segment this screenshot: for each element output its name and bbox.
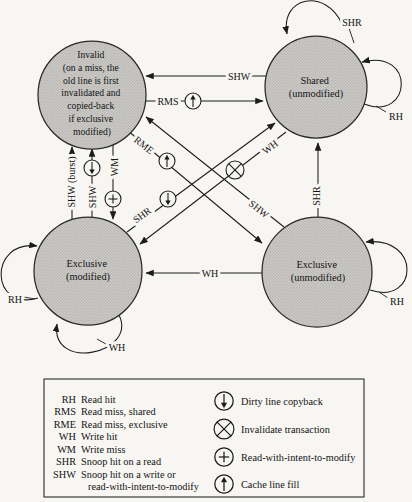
loop-label-exclusive-unmodified-rh: RH (390, 296, 404, 307)
loop-shared-shr-leader (349, 28, 354, 43)
legend-def-wh: Write hit (81, 431, 118, 442)
mesi-state-diagram: Invalid (on a miss, the old line is firs… (0, 0, 412, 502)
loop-exclusive-modified-wh-leader (97, 339, 106, 344)
legend-sym-def-fill: Cache line fill (241, 479, 299, 490)
legend-sym-def-invalidate: Invalidate transaction (241, 424, 330, 435)
diagram-canvas: Invalid (on a miss, the old line is firs… (0, 0, 412, 502)
loop-label-exclusive-modified-wh: WH (109, 342, 126, 353)
legend-def-shw: Snoop hit on a write or (81, 469, 176, 480)
legend-abbr-rh: RH (62, 394, 77, 405)
loop-label-exclusive-modified-rh: RH (8, 294, 22, 305)
legend-abbr-rme: RME (54, 419, 76, 430)
cache-line-fill-icon (159, 153, 175, 169)
legend-sym-def-rwitm: Read-with-intent-to-modify (241, 452, 356, 463)
edge-label-shr-diagonal: SHR (131, 205, 153, 226)
loop-shared-rh (362, 60, 401, 107)
loop-label-shared-rh: RH (389, 111, 403, 122)
state-exclusive-unmodified-label: Exclusive (unmodified) (291, 259, 345, 284)
dirty-line-copyback-icon (84, 160, 100, 176)
legend-abbr-wh: WH (59, 431, 77, 442)
edge-label-shr-vertical: SHR (311, 186, 322, 206)
legend-abbr-wm: WM (57, 444, 76, 455)
legend-abbr-shr: SHR (56, 456, 76, 467)
invalidate-transaction-icon (226, 161, 244, 179)
read-with-intent-to-modify-icon (105, 191, 121, 207)
edge-label-wm: WM (109, 158, 120, 176)
loop-exclusive-modified-rh-leader (24, 297, 35, 299)
legend-abbr-shw: SHW (53, 469, 76, 480)
legend-invalidate-transaction-icon (214, 419, 234, 439)
loop-label-shared-shr: SHR (342, 17, 362, 28)
legend-def-wm: Write miss (81, 444, 126, 455)
loop-shared-shr (286, 1, 342, 34)
legend-sym-def-copyback: Dirty line copyback (241, 396, 324, 407)
legend-abbr-rms: RMS (54, 406, 76, 417)
edge-label-shw-diagonal: SHW (247, 198, 272, 221)
edge-label-wh-horizontal: WH (202, 268, 219, 279)
legend-def-shw-line2: read-with-intent-to-modify (88, 481, 200, 492)
edge-label-wh-diagonal: WH (260, 138, 280, 157)
loop-exclusive-modified-rh (1, 246, 38, 300)
legend-def-shr: Snoop hit on a read (81, 456, 162, 467)
legend-cache-line-fill-icon (215, 475, 233, 493)
edge-label-shw-burst: SHW (burst) (66, 156, 78, 207)
state-shared (265, 36, 367, 138)
legend-dirty-line-copyback-icon (215, 392, 233, 410)
legend-def-rms: Read miss, shared (81, 406, 156, 417)
dirty-line-copyback-icon (160, 191, 176, 207)
edge-label-rms: RMS (157, 96, 178, 107)
edge-label-shw-vertical: SHW (87, 185, 98, 208)
edge-label-shw-top: SHW (228, 71, 251, 82)
legend-read-with-intent-to-modify-icon (215, 448, 233, 466)
cache-line-fill-icon (185, 93, 201, 109)
legend-def-rh: Read hit (81, 394, 116, 405)
edge-label-rme: RME (132, 134, 156, 156)
state-exclusive-modified-label: Exclusive (modified) (66, 258, 110, 283)
legend-def-rme: Read miss, exclusive (81, 419, 168, 430)
